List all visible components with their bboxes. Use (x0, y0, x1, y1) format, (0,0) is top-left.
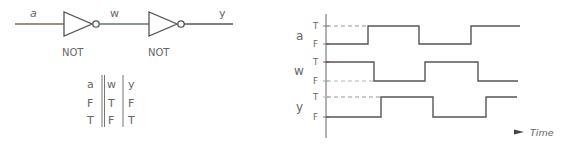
inversion-bubble-icon (93, 21, 99, 27)
table-cell: T (127, 114, 135, 127)
signal-w: w T F (294, 57, 518, 86)
output-label-y: y (219, 7, 226, 20)
truth-table: a w y F T F T F T (77, 75, 148, 127)
signal-name: a (296, 29, 303, 43)
signal-y: y T F (296, 92, 517, 122)
level-low-label: F (313, 39, 318, 49)
timing-diagram: Time a T F w T F y T F (294, 14, 554, 138)
table-header-w: w (107, 78, 116, 91)
table-cell: T (107, 97, 115, 110)
not-gate-1 (64, 12, 99, 36)
waveform-a (326, 26, 520, 44)
level-low-label: F (313, 112, 318, 122)
input-label-a: a (30, 7, 37, 20)
waveform-w (326, 62, 518, 81)
time-axis-label: Time (530, 127, 554, 138)
level-high-label: T (312, 21, 319, 31)
not-gate-icon (149, 12, 177, 36)
not-gate-2 (149, 12, 184, 36)
inversion-bubble-icon (178, 21, 184, 27)
waveform-y (326, 97, 517, 117)
table-cell: T (86, 114, 94, 127)
gate-label-2: NOT (148, 47, 170, 58)
table-cell: F (128, 97, 134, 110)
logic-diagram: a NOT w NOT y a w y F T F T F T (0, 0, 570, 146)
signal-name: y (296, 100, 303, 114)
table-cell: F (87, 97, 93, 110)
table-header-a: a (87, 78, 94, 91)
gate-label-1: NOT (62, 47, 84, 58)
time-axis-arrow-icon (514, 130, 524, 135)
table-cell: F (108, 114, 114, 127)
level-high-label: T (312, 57, 319, 67)
level-high-label: T (312, 92, 319, 102)
middle-label-w: w (110, 7, 119, 20)
circuit: a NOT w NOT y (15, 7, 233, 58)
level-low-label: F (313, 76, 318, 86)
not-gate-icon (64, 12, 92, 36)
table-header-y: y (128, 78, 135, 91)
signal-name: w (294, 64, 304, 78)
signal-a: a T F (296, 21, 520, 49)
